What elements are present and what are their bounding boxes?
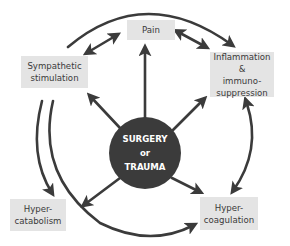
double-arrow-sympathetic-pain bbox=[90, 35, 117, 51]
node-hypercatabolism: Hyper- catabolism bbox=[10, 199, 66, 231]
node-hypercatabolism-line-1: Hyper- bbox=[24, 203, 52, 215]
node-inflammation-line-1: Inflammation & bbox=[210, 51, 274, 75]
center-line-2: or bbox=[140, 146, 150, 160]
node-inflammation-immunosuppression: Inflammation & immuno- suppression bbox=[210, 52, 274, 97]
node-sympathetic-stimulation: Sympathetic stimulation bbox=[21, 56, 88, 88]
node-hypercoagulation-line-1: Hyper- bbox=[215, 202, 243, 214]
node-hypercoagulation: Hyper- coagulation bbox=[200, 197, 258, 230]
node-sympathetic-line-1: Sympathetic bbox=[27, 60, 81, 72]
arrow-to-hypercoagulation bbox=[172, 178, 200, 192]
center-line-3: TRAUMA bbox=[124, 160, 165, 174]
arrow-to-inflammation bbox=[172, 99, 204, 131]
arc-inflammation-hypercoagulation bbox=[233, 104, 252, 191]
node-pain-label: Pain bbox=[142, 24, 160, 36]
double-arrow-pain-inflammation bbox=[180, 33, 206, 47]
center-node-surgery-trauma: SURGERY or TRAUMA bbox=[109, 117, 181, 189]
arrow-to-sympathetic bbox=[90, 96, 120, 128]
node-inflammation-line-2: immuno- bbox=[223, 75, 262, 87]
node-hypercoagulation-line-2: coagulation bbox=[204, 214, 254, 226]
node-pain: Pain bbox=[127, 20, 175, 40]
node-inflammation-line-3: suppression bbox=[216, 87, 268, 99]
node-sympathetic-line-2: stimulation bbox=[30, 72, 78, 84]
arrow-to-hypercatabolism bbox=[84, 178, 120, 205]
center-line-1: SURGERY bbox=[122, 132, 167, 146]
node-hypercatabolism-line-2: catabolism bbox=[15, 215, 62, 227]
